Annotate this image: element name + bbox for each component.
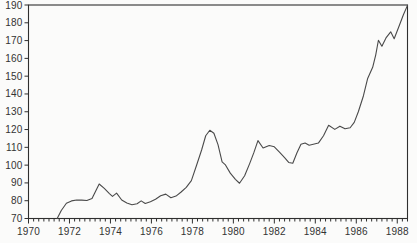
x-tick-label-1978: 1978 bbox=[181, 226, 204, 237]
chart-svg: 1901801701601501401301201101009080701970… bbox=[0, 0, 417, 243]
line-chart-figure: 1901801701601501401301201101009080701970… bbox=[0, 0, 417, 243]
x-tick-label-1986: 1986 bbox=[345, 226, 368, 237]
y-tick-label-110: 110 bbox=[6, 142, 23, 153]
y-tick-label-90: 90 bbox=[11, 177, 23, 188]
y-tick-label-150: 150 bbox=[5, 71, 23, 82]
x-tick-label-1984: 1984 bbox=[304, 226, 327, 237]
y-tick-label-130: 130 bbox=[5, 106, 23, 117]
y-tick-label-70: 70 bbox=[11, 213, 23, 224]
x-tick-label-1976: 1976 bbox=[140, 226, 163, 237]
y-tick-label-180: 180 bbox=[5, 17, 23, 28]
y-tick-label-120: 120 bbox=[5, 124, 23, 135]
y-tick-label-140: 140 bbox=[5, 88, 23, 99]
plot-border bbox=[29, 5, 408, 219]
x-tick-label-1974: 1974 bbox=[99, 226, 122, 237]
y-tick-label-80: 80 bbox=[11, 195, 23, 206]
x-tick-label-1980: 1980 bbox=[222, 226, 245, 237]
y-tick-label-160: 160 bbox=[5, 53, 23, 64]
y-tick-label-100: 100 bbox=[5, 160, 23, 171]
y-tick-label-170: 170 bbox=[5, 35, 23, 46]
x-tick-label-1982: 1982 bbox=[263, 226, 286, 237]
x-tick-label-1970: 1970 bbox=[17, 226, 40, 237]
x-tick-label-1988: 1988 bbox=[386, 226, 409, 237]
x-tick-label-1972: 1972 bbox=[58, 226, 81, 237]
y-tick-label-190: 190 bbox=[5, 0, 23, 11]
